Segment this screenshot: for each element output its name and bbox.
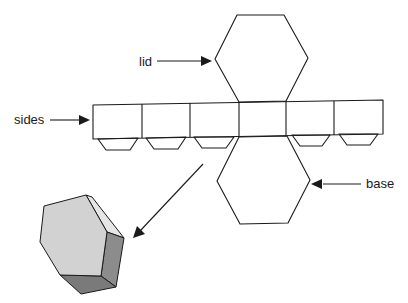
tab-5 (292, 135, 330, 146)
tab-2 (146, 137, 186, 149)
tab-1 (98, 138, 138, 150)
base-hexagon (217, 136, 310, 224)
hexagonal-prism-net-diagram: lid sides base (0, 0, 408, 303)
base-arrow-head-icon (311, 179, 322, 189)
lid-hexagon (215, 15, 308, 102)
tab-6 (339, 134, 378, 145)
lid-arrow-head-icon (201, 56, 212, 66)
lid-label: lid (139, 54, 152, 69)
tab-3 (194, 137, 234, 148)
sides-arrow-head-icon (79, 115, 90, 125)
assembled-prism (40, 195, 124, 294)
sides-strip-outline (93, 100, 383, 139)
assembly-arrow-line (140, 164, 203, 231)
sides-label: sides (14, 112, 45, 127)
sides-strip (93, 100, 383, 139)
base-label: base (366, 176, 394, 191)
